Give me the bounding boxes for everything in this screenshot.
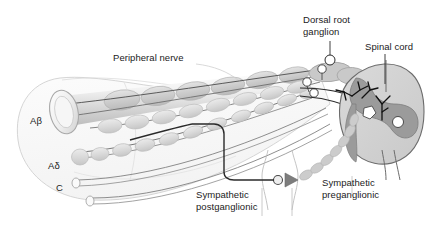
c-fiber-cut-end: [72, 178, 80, 188]
label-sympathetic-preganglionic: Sympathetic preganglionic: [322, 177, 379, 200]
myelin-segment: [72, 149, 89, 165]
label-dorsal-root-ganglion: Dorsal root ganglion: [303, 14, 350, 37]
label-peripheral-nerve: Peripheral nerve: [113, 52, 184, 64]
anatomical-figure: Peripheral nerve Dorsal root ganglion Sp…: [0, 0, 426, 235]
label-sympathetic-postganglionic: Sympathetic postganglionic: [196, 189, 257, 212]
label-a-delta-fiber: Aδ: [48, 160, 60, 172]
label-a-beta-fiber: Aβ: [30, 115, 42, 127]
drg-cell-body: [303, 78, 311, 86]
drg-cell-body: [310, 89, 318, 97]
label-c-fiber: C: [56, 182, 63, 194]
c-fiber-cut-end: [86, 196, 94, 206]
ventral-horn-motor-neuron: [393, 117, 404, 128]
leader-dot-dorsal-root-ganglion: [325, 55, 335, 65]
postganglionic-cell-body: [274, 176, 283, 185]
synaptic-terminal-arrowhead: [285, 173, 298, 187]
label-spinal-cord: Spinal cord: [365, 41, 413, 53]
drg-cell-body: [318, 65, 326, 73]
